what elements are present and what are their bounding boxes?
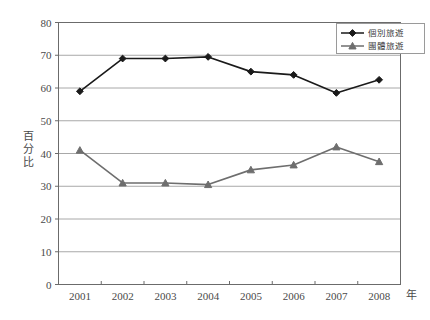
x-axis-tick-label: 2008 — [368, 290, 391, 302]
x-axis-tick-label: 2004 — [197, 290, 220, 302]
y-axis-tick-label: 10 — [41, 246, 53, 258]
x-axis-title: 年 — [406, 288, 417, 302]
x-axis-tick-label: 2002 — [112, 290, 134, 302]
y-axis-title-char: 百 — [23, 130, 34, 143]
y-axis-tick-label: 50 — [41, 115, 53, 127]
y-axis-tick-label: 60 — [41, 82, 53, 94]
y-axis-tick-label: 20 — [41, 213, 53, 225]
x-axis-tick-label: 2006 — [283, 290, 306, 302]
x-axis-tick-label: 2007 — [325, 290, 348, 302]
x-axis-tick-label: 2005 — [240, 290, 263, 302]
y-axis-tick-label: 30 — [41, 180, 53, 192]
legend-label: 個別旅遊 — [368, 28, 404, 38]
legend-label: 團體旅遊 — [368, 41, 404, 51]
y-axis-tick-label: 70 — [41, 49, 53, 61]
x-axis-tick-label: 2003 — [154, 290, 177, 302]
y-axis-title: 百分比 — [23, 130, 34, 169]
line-chart: 01020304050607080 2001200220032004200520… — [0, 0, 430, 320]
y-axis-title-char: 分 — [23, 143, 34, 156]
chart-canvas: 01020304050607080 2001200220032004200520… — [0, 0, 430, 320]
x-axis-tick-label: 2001 — [69, 290, 91, 302]
y-axis-tick-label: 40 — [41, 148, 53, 160]
y-axis-tick-label: 0 — [46, 279, 52, 291]
y-axis-tick-label: 80 — [41, 17, 53, 29]
chart-legend: 個別旅遊團體旅遊 — [337, 24, 425, 54]
y-axis-title-char: 比 — [23, 156, 34, 169]
